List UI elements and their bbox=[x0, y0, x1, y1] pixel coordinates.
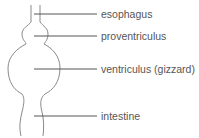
label-esophagus: esophagus bbox=[101, 8, 152, 20]
label-proventriculus: proventriculus bbox=[101, 30, 166, 42]
tract-outline-left bbox=[8, 5, 31, 136]
label-ventriculus: ventriculus (gizzard) bbox=[101, 63, 195, 75]
label-intestine: intestine bbox=[101, 110, 140, 122]
